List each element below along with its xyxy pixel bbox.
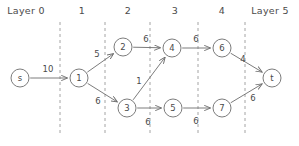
graph-edge — [87, 54, 113, 72]
graph-node: 6 — [213, 39, 231, 57]
graph-node: 4 — [163, 39, 181, 57]
diagram-canvas: s1234567t 10566166646 Layer 01234Layer 5 — [0, 0, 299, 146]
edge-weight-label: 6 — [193, 34, 198, 44]
node-label: 1 — [76, 73, 81, 83]
layer-label: Layer 0 — [7, 5, 45, 16]
edge-weight-label: 4 — [240, 54, 245, 64]
graph-node: s — [11, 69, 29, 87]
graph-node: 2 — [114, 38, 132, 56]
edge-weight-label: 6 — [193, 116, 198, 126]
graph-node: 5 — [164, 99, 182, 117]
node-label: 6 — [219, 43, 224, 53]
node-label: 5 — [170, 103, 175, 113]
layer-label: 1 — [79, 5, 85, 16]
layer-label-group: Layer 01234Layer 5 — [7, 5, 289, 16]
node-label: s — [18, 73, 23, 83]
edge-weight-label: 6 — [95, 96, 100, 106]
edge-weight-label: 10 — [43, 64, 54, 74]
edge-weight-label: 5 — [94, 49, 99, 59]
node-label: 2 — [120, 42, 125, 52]
graph-node: 3 — [118, 99, 136, 117]
graph-node: t — [263, 69, 281, 87]
graph-edge — [88, 83, 118, 101]
graph-node: 1 — [70, 69, 88, 87]
edge-group — [30, 47, 262, 108]
node-label: 3 — [124, 103, 129, 113]
layer-label: 2 — [125, 5, 131, 16]
node-label: 4 — [169, 43, 174, 53]
edge-weight-label: 6 — [143, 34, 148, 44]
graph-node: 7 — [213, 99, 231, 117]
edge-weight-label: 6 — [145, 117, 150, 127]
edge-weight-label: 1 — [136, 76, 141, 86]
graph-edge — [231, 53, 262, 72]
node-label: 7 — [219, 103, 224, 113]
layer-label: 3 — [172, 5, 178, 16]
graph-edge — [231, 84, 262, 103]
layer-label: 4 — [219, 5, 225, 16]
node-group: s1234567t — [11, 38, 281, 117]
graph-edge — [133, 47, 160, 48]
layer-label: Layer 5 — [251, 5, 289, 16]
edge-weight-label: 6 — [250, 93, 255, 103]
layered-graph: s1234567t 10566166646 Layer 01234Layer 5 — [0, 0, 299, 146]
